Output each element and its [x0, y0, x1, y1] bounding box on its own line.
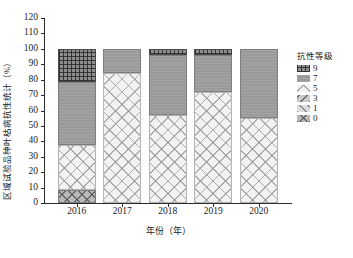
x-tick-label: 2019: [204, 207, 223, 217]
legend-item-label: 5: [313, 84, 318, 93]
stacked-bar[interactable]: [194, 18, 232, 203]
legend-title: 抗性等级: [297, 52, 353, 61]
legend-swatch-icon: [297, 75, 310, 82]
legend-item-5[interactable]: 5: [297, 84, 353, 94]
bar-segment-level-7[interactable]: [149, 55, 187, 115]
legend: 抗性等级 975310: [297, 52, 353, 124]
y-tick-mark: [41, 33, 45, 34]
x-tick-label: 2020: [249, 207, 268, 217]
bar-segment-level-7[interactable]: [194, 55, 232, 92]
legend-swatch-icon: [297, 95, 310, 102]
stacked-bar[interactable]: [58, 18, 96, 203]
legend-item-label: 3: [313, 94, 318, 103]
x-tick-label: 2017: [113, 207, 132, 217]
y-tick-mark: [41, 157, 45, 158]
x-tick-mark: [213, 203, 214, 207]
legend-swatch-icon: [297, 85, 310, 92]
bar-segment-level-9[interactable]: [149, 49, 187, 55]
x-tick-mark: [259, 203, 260, 207]
legend-item-label: 0: [313, 114, 318, 123]
bar-segment-level-7[interactable]: [58, 82, 96, 145]
y-axis-title: 区域试验品种叶枯病抗性统计（%）: [0, 0, 13, 258]
x-tick-label: 2016: [67, 207, 86, 217]
x-tick-label: 2018: [158, 207, 177, 217]
bar-segment-level-0[interactable]: [58, 190, 96, 203]
legend-item-0[interactable]: 0: [297, 114, 353, 124]
legend-item-7[interactable]: 7: [297, 74, 353, 84]
y-tick-mark: [41, 188, 45, 189]
x-axis-title: 年份（年）: [44, 224, 292, 237]
y-tick-mark: [41, 80, 45, 81]
y-tick-mark: [41, 64, 45, 65]
stacked-bar[interactable]: [149, 18, 187, 203]
legend-item-3[interactable]: 3: [297, 94, 353, 104]
bar-segment-level-5[interactable]: [103, 73, 141, 203]
legend-swatch-icon: [297, 115, 310, 122]
legend-swatch-icon: [297, 105, 310, 112]
y-tick-mark: [41, 126, 45, 127]
chart-container: 区域试验品种叶枯病抗性统计（%） 01020304050607080901001…: [0, 0, 353, 258]
legend-item-label: 7: [313, 74, 318, 83]
y-tick-mark: [41, 111, 45, 112]
y-tick-mark: [41, 203, 45, 204]
legend-item-label: 1: [313, 104, 318, 113]
y-tick-mark: [41, 95, 45, 96]
bar-segment-level-5[interactable]: [194, 92, 232, 203]
bar-segment-level-9[interactable]: [194, 49, 232, 55]
bar-segment-level-7[interactable]: [240, 49, 278, 118]
y-tick-mark: [41, 172, 45, 173]
y-tick-mark: [41, 49, 45, 50]
x-tick-mark: [168, 203, 169, 207]
bar-segment-level-5[interactable]: [149, 115, 187, 203]
stacked-bar[interactable]: [103, 18, 141, 203]
bar-segment-level-7[interactable]: [103, 49, 141, 73]
legend-item-1[interactable]: 1: [297, 104, 353, 114]
legend-items: 975310: [297, 64, 353, 124]
legend-item-9[interactable]: 9: [297, 64, 353, 74]
y-tick-mark: [41, 141, 45, 142]
legend-swatch-icon: [297, 65, 310, 72]
stacked-bar[interactable]: [240, 18, 278, 203]
x-tick-mark: [122, 203, 123, 207]
plot-area: 0102030405060708090100110120 20162017201…: [44, 18, 292, 204]
bar-segment-level-5[interactable]: [58, 145, 96, 190]
legend-item-label: 9: [313, 64, 318, 73]
bar-segment-level-5[interactable]: [240, 118, 278, 203]
bar-segment-level-9[interactable]: [58, 49, 96, 82]
x-tick-mark: [77, 203, 78, 207]
y-tick-mark: [41, 18, 45, 19]
